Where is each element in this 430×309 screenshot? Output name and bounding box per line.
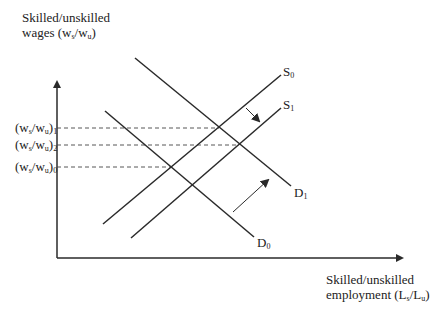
demand-shift-arrow (233, 180, 268, 212)
curve-label-d0: D0 (257, 235, 270, 254)
diagram-canvas (0, 0, 430, 309)
wage-level-0-label: (ws/wu)0 (15, 159, 57, 178)
demand-curve-d0 (105, 111, 254, 237)
supply-curve-s0 (103, 75, 281, 224)
x-axis-label: Skilled/unskilled employment (Ls/Lu) (326, 272, 430, 306)
curve-label-s1: S1 (283, 97, 294, 116)
wage-level-2-label: (ws/wu)2 (15, 137, 57, 156)
curve-label-s0: S0 (283, 64, 294, 83)
y-axis-label: Skilled/unskilled wages (ws/wu) (22, 10, 110, 44)
curve-label-d1: D1 (294, 185, 307, 204)
supply-curve-s1 (131, 108, 281, 238)
supply-shift-arrow (246, 108, 259, 121)
